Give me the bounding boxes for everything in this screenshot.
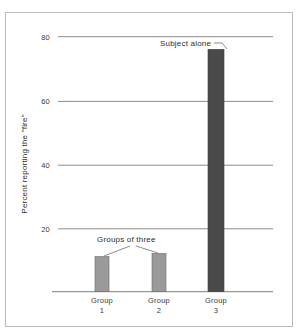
bar-group-2: [152, 253, 166, 291]
x-tick-label-group-2-line2: 2: [157, 306, 161, 315]
annotation-subject-alone-label: Subject alone: [160, 39, 211, 48]
x-tick-label-group-3-line2: 3: [214, 306, 218, 315]
annotation-subject-alone-leader-line: [214, 43, 227, 49]
x-tick-label-group-2-line1: Group: [148, 296, 170, 305]
y-tick-label-40: 40: [41, 161, 50, 170]
annotation-groups-of-three: Groups of three: [97, 235, 158, 256]
y-tick-label-80: 80: [41, 33, 50, 42]
annotation-groups-of-three-leader-right: [136, 246, 158, 253]
y-tick-label-20: 20: [41, 225, 50, 234]
figure: 80 60 40 20 Percent reporting the "fire"…: [0, 0, 301, 336]
x-tick-label-group-1-line2: 1: [100, 306, 104, 315]
x-tick-labels: Group 1 Group 2 Group 3: [91, 296, 227, 315]
y-axis-title: Percent reporting the "fire": [20, 114, 29, 213]
y-tick-label-60: 60: [41, 97, 50, 106]
bars: [95, 49, 224, 291]
gridlines: [58, 37, 273, 229]
bar-group-1: [95, 257, 109, 292]
y-tick-labels: 80 60 40 20: [41, 33, 50, 234]
bar-group-3: [208, 49, 224, 291]
x-tick-label-group-3-line1: Group: [205, 296, 227, 305]
annotation-subject-alone: Subject alone: [160, 39, 227, 49]
annotation-groups-of-three-label: Groups of three: [97, 235, 156, 244]
bar-chart: 80 60 40 20 Percent reporting the "fire"…: [0, 0, 301, 336]
annotation-groups-of-three-leader-left: [104, 246, 130, 256]
x-tick-label-group-1-line1: Group: [91, 296, 113, 305]
